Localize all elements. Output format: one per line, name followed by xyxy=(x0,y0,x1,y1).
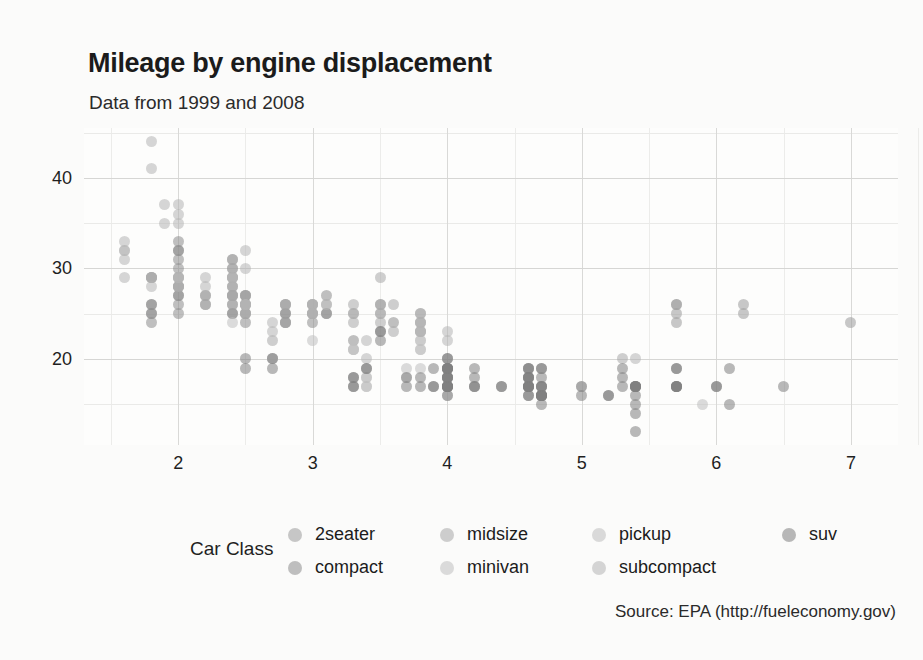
scatter-point xyxy=(603,390,614,401)
scatter-point xyxy=(536,372,547,383)
gridline-x-minor xyxy=(784,128,785,445)
gridline-y-minor xyxy=(84,133,898,134)
scatter-point xyxy=(146,136,157,147)
legend-item-compact[interactable]: compact xyxy=(288,551,440,584)
legend-item-label: pickup xyxy=(619,524,671,545)
scatter-point xyxy=(307,308,318,319)
scatter-point xyxy=(428,381,439,392)
scatter-point xyxy=(361,381,372,392)
x-axis: 234567 xyxy=(84,449,898,483)
y-axis-tick-label: 20 xyxy=(52,348,72,369)
scatter-point xyxy=(388,299,399,310)
x-axis-tick-label: 6 xyxy=(711,453,721,474)
legend-items: 2seatercompactmidsizeminivanpickupsubcom… xyxy=(288,518,922,584)
legend-title: Car Class xyxy=(190,538,273,560)
gridline-x-minor xyxy=(918,128,919,445)
x-axis-tick-label: 3 xyxy=(308,453,318,474)
x-axis-tick-label: 5 xyxy=(577,453,587,474)
legend-item-label: 2seater xyxy=(315,524,375,545)
page-title: Mileage by engine displacement xyxy=(88,48,492,79)
scatter-point xyxy=(146,163,157,174)
scatter-point xyxy=(375,272,386,283)
scatter-point xyxy=(361,335,372,346)
scatter-point xyxy=(240,308,251,319)
scatter-point xyxy=(267,353,278,364)
scatter-point xyxy=(496,381,507,392)
scatter-point xyxy=(724,363,735,374)
scatter-point xyxy=(697,399,708,410)
legend-item-label: minivan xyxy=(467,557,529,578)
gridline-x-minor xyxy=(245,128,246,445)
gridline-x-minor xyxy=(649,128,650,445)
scatter-point xyxy=(119,272,130,283)
scatter-point xyxy=(173,245,184,256)
legend-swatch-icon xyxy=(782,528,796,542)
scatter-point xyxy=(361,363,372,374)
scatter-point xyxy=(159,199,170,210)
scatter-point xyxy=(348,344,359,355)
scatter-point xyxy=(173,308,184,319)
scatter-point xyxy=(428,363,439,374)
gridline-x-major xyxy=(851,128,852,445)
scatter-point xyxy=(348,372,359,383)
scatter-point xyxy=(267,317,278,328)
scatter-point xyxy=(630,426,641,437)
legend-swatch-icon xyxy=(592,528,606,542)
scatter-point xyxy=(738,308,749,319)
legend-item-minivan[interactable]: minivan xyxy=(440,551,592,584)
scatter-point xyxy=(267,363,278,374)
scatter-point xyxy=(401,372,412,383)
y-axis-tick-label: 40 xyxy=(52,167,72,188)
scatter-point xyxy=(442,335,453,346)
scatter-point xyxy=(630,399,641,410)
scatter-point xyxy=(280,299,291,310)
legend-item-2seater[interactable]: 2seater xyxy=(288,518,440,551)
scatter-point xyxy=(576,381,587,392)
scatter-point xyxy=(227,290,238,301)
scatter-point xyxy=(227,272,238,283)
scatter-point xyxy=(671,299,682,310)
legend-swatch-icon xyxy=(592,561,606,575)
scatter-point xyxy=(671,381,682,392)
gridline-x-minor xyxy=(111,128,112,445)
scatter-point xyxy=(173,209,184,220)
scatter-point xyxy=(200,281,211,292)
scatter-point xyxy=(375,326,386,337)
legend-item-pickup[interactable]: pickup xyxy=(592,518,782,551)
scatter-point xyxy=(388,326,399,337)
scatter-point xyxy=(415,372,426,383)
chart-subtitle: Data from 1999 and 2008 xyxy=(89,92,305,114)
gridline-y-major xyxy=(84,359,898,360)
gridline-y-major xyxy=(84,268,898,269)
y-axis-tick-label: 30 xyxy=(52,258,72,279)
scatter-point xyxy=(146,317,157,328)
scatter-point xyxy=(778,381,789,392)
scatter-point xyxy=(159,218,170,229)
scatter-point xyxy=(671,317,682,328)
scatter-point xyxy=(469,363,480,374)
legend: Car Class 2seatercompactmidsizeminivanpi… xyxy=(0,518,923,588)
scatter-point xyxy=(146,272,157,283)
legend-swatch-icon xyxy=(440,528,454,542)
gridline-y-minor xyxy=(84,314,898,315)
scatter-point xyxy=(469,381,480,392)
scatter-point xyxy=(845,317,856,328)
scatter-point xyxy=(119,254,130,265)
x-axis-tick-label: 4 xyxy=(442,453,452,474)
scatter-point xyxy=(630,353,641,364)
y-axis: 403020 xyxy=(24,128,72,445)
gridline-x-major xyxy=(716,128,717,445)
legend-item-midsize[interactable]: midsize xyxy=(440,518,592,551)
chart-page: Mileage by engine displacement Data from… xyxy=(0,0,923,660)
gridline-y-minor xyxy=(84,404,898,405)
legend-item-subcompact[interactable]: subcompact xyxy=(592,551,782,584)
legend-item-label: suv xyxy=(809,524,837,545)
scatter-point xyxy=(630,381,641,392)
legend-swatch-icon xyxy=(288,561,302,575)
legend-item-label: compact xyxy=(315,557,383,578)
scatter-point xyxy=(711,381,722,392)
scatter-point xyxy=(617,363,628,374)
legend-item-suv[interactable]: suv xyxy=(782,518,922,551)
scatter-point xyxy=(240,363,251,374)
scatter-point xyxy=(321,299,332,310)
